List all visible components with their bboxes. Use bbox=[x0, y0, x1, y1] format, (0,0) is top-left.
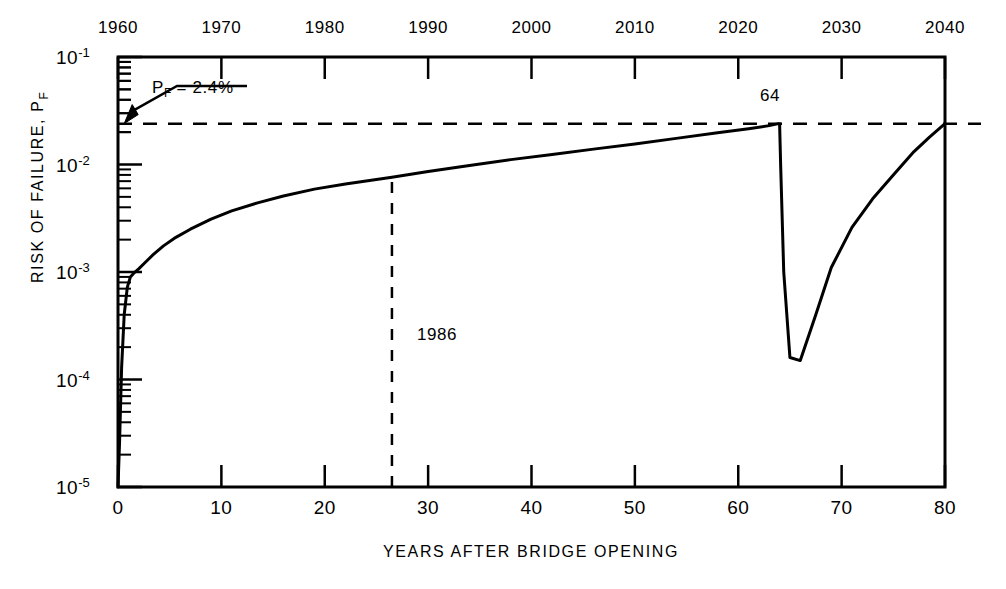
x-axis-title: YEARS AFTER BRIDGE OPENING bbox=[383, 543, 679, 561]
bottom-axis-tick-label: 60 bbox=[727, 497, 749, 519]
chart-plot-area bbox=[0, 0, 1006, 589]
reference-lines bbox=[118, 124, 981, 487]
top-axis-tick-label: 1970 bbox=[201, 18, 241, 38]
y-axis-major-tick-label: 10-1 bbox=[56, 45, 90, 69]
pf-annotation-p: P bbox=[152, 78, 164, 97]
pf-threshold-annotation-text: PF = 2.4% bbox=[152, 78, 234, 100]
repair-year-annotation-text: 64 bbox=[760, 86, 780, 106]
plot-frame bbox=[118, 57, 945, 487]
y-axis-major-tick-label: 10-4 bbox=[56, 367, 90, 391]
bottom-axis-tick-label: 40 bbox=[520, 497, 542, 519]
top-axis-tick-label: 2030 bbox=[822, 18, 862, 38]
top-axis-ticks bbox=[118, 57, 945, 79]
risk-of-failure-curve bbox=[118, 124, 945, 487]
top-axis-tick-label: 2000 bbox=[512, 18, 552, 38]
y-axis-title: RISK OF FAILURE, PF bbox=[29, 58, 50, 318]
bottom-axis-tick-label: 70 bbox=[831, 497, 853, 519]
data-series-group bbox=[118, 124, 945, 487]
top-axis-tick-label: 1980 bbox=[305, 18, 345, 38]
pf-annotation-value: = 2.4% bbox=[171, 78, 233, 97]
axes-border bbox=[118, 57, 945, 487]
chart-figure: 1960197019801990200020102020203020400102… bbox=[0, 0, 1006, 589]
y-axis-major-tick-label: 10-5 bbox=[56, 475, 90, 499]
bottom-axis-tick-label: 10 bbox=[210, 497, 232, 519]
inspection-year-annotation-text: 1986 bbox=[417, 325, 457, 345]
top-axis-tick-label: 2020 bbox=[718, 18, 758, 38]
y-axis-title-subscript: F bbox=[37, 92, 51, 99]
y-axis-major-tick-label: 10-2 bbox=[56, 152, 90, 176]
bottom-axis-ticks bbox=[118, 465, 945, 487]
bottom-axis-tick-label: 50 bbox=[624, 497, 646, 519]
top-axis-tick-label: 2040 bbox=[925, 18, 965, 38]
y-axis-title-main: RISK OF FAILURE, P bbox=[29, 100, 46, 284]
bottom-axis-tick-label: 80 bbox=[934, 497, 956, 519]
top-axis-tick-label: 1960 bbox=[98, 18, 138, 38]
top-axis-tick-label: 2010 bbox=[615, 18, 655, 38]
top-axis-tick-label: 1990 bbox=[408, 18, 448, 38]
bottom-axis-tick-label: 30 bbox=[417, 497, 439, 519]
bottom-axis-tick-label: 20 bbox=[314, 497, 336, 519]
y-axis-major-tick-label: 10-3 bbox=[56, 260, 90, 284]
bottom-axis-tick-label: 0 bbox=[112, 497, 123, 519]
